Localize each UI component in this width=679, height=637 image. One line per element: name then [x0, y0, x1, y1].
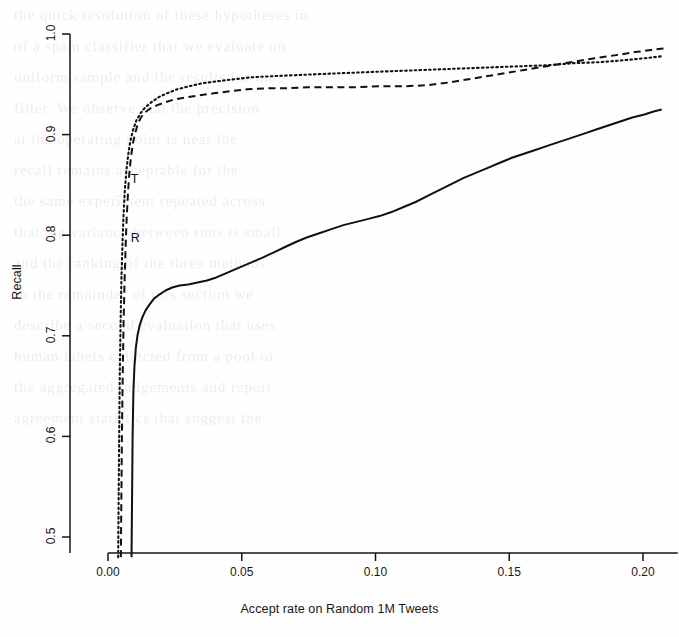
y-tick-label-3: 0.8: [44, 217, 58, 251]
y-tick-label-0: 0.5: [44, 519, 58, 553]
y-axis-title: Recall: [10, 247, 24, 317]
series-line-solid: [132, 109, 662, 557]
series-line-T: [121, 48, 666, 557]
figure-panel: the quick resolution of these hypotheses…: [0, 0, 679, 637]
series-line-R: [118, 56, 663, 557]
y-tick-label-1: 0.6: [44, 418, 58, 452]
curve-label-T: T: [131, 172, 139, 186]
x-tick-label-1: 0.05: [217, 565, 267, 579]
y-tick-label-2: 0.7: [44, 318, 58, 352]
y-tick-label-5: 1.0: [44, 16, 58, 50]
curves-group: [118, 48, 666, 557]
x-tick-label-3: 0.15: [484, 565, 534, 579]
x-tick-label-4: 0.20: [618, 565, 668, 579]
y-tick-label-4: 0.9: [44, 117, 58, 151]
curve-label-R: R: [131, 231, 140, 245]
x-axis-title: Accept rate on Random 1M Tweets: [0, 602, 679, 616]
recall-vs-accept-rate-plot: [0, 0, 679, 637]
x-tick-label-2: 0.10: [351, 565, 401, 579]
x-tick-label-0: 0.00: [83, 565, 133, 579]
